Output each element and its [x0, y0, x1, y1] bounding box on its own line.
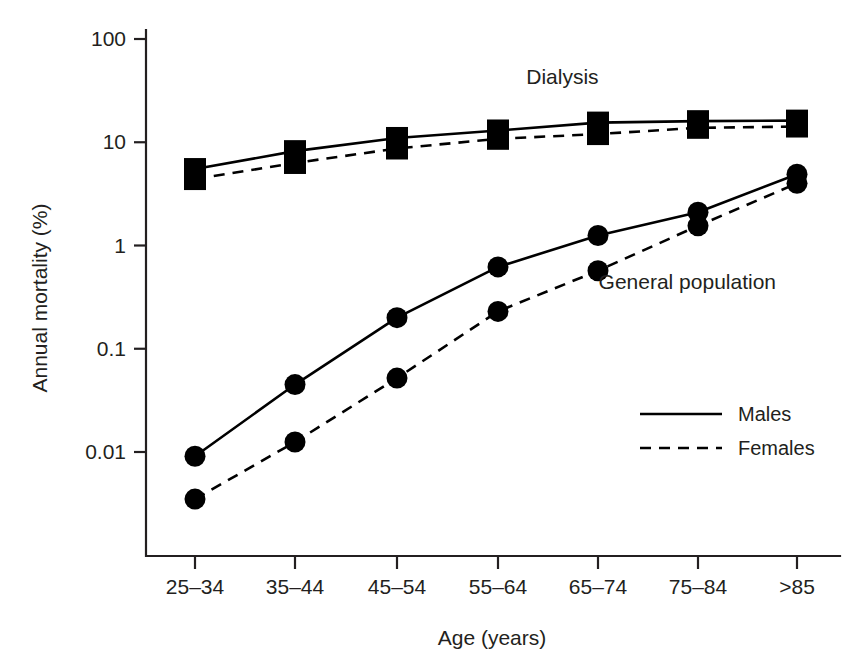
x-tick-label: 55–64: [469, 575, 528, 598]
series-general-population-females: [185, 173, 808, 510]
x-tick-label: 25–34: [166, 575, 225, 598]
y-tick-label: 100: [91, 27, 126, 50]
legend-item-males: Males: [640, 403, 791, 425]
data-point-circle: [787, 173, 808, 194]
annotation-dialysis: Dialysis: [526, 65, 598, 88]
axis-frame: [146, 30, 840, 556]
x-tick: 75–84: [669, 556, 728, 598]
y-tick: 10: [103, 130, 146, 153]
data-point-circle: [185, 446, 206, 467]
data-point-square: [487, 128, 509, 150]
y-tick: 0.01: [85, 440, 146, 463]
data-point-square: [284, 152, 306, 174]
y-tick: 0.1: [97, 337, 146, 360]
x-axis-ticks: 25–3435–4445–5455–6465–7475–84>85: [166, 556, 815, 598]
data-point-square: [386, 137, 408, 159]
chart-figure: 1001010.10.01 25–3435–4445–5455–6465–747…: [0, 0, 850, 662]
y-tick-label: 10: [103, 130, 126, 153]
chart-annotations: DialysisGeneral population: [526, 65, 776, 293]
data-point-circle: [387, 368, 408, 389]
x-tick: >85: [779, 556, 815, 598]
x-tick-label: 35–44: [266, 575, 325, 598]
data-point-circle: [488, 301, 509, 322]
data-point-circle: [285, 374, 306, 395]
legend-label: Females: [738, 437, 815, 459]
y-tick: 100: [91, 27, 146, 50]
y-tick: 1: [114, 234, 146, 257]
x-tick-label: 65–74: [569, 575, 628, 598]
chart-legend: MalesFemales: [640, 403, 815, 459]
x-tick: 45–54: [368, 556, 427, 598]
x-axis-title: Age (years): [438, 626, 547, 649]
legend-label: Males: [738, 403, 791, 425]
annotation-general-population: General population: [599, 270, 776, 293]
x-tick-label: >85: [779, 575, 815, 598]
data-point-circle: [688, 215, 709, 236]
x-tick: 55–64: [469, 556, 528, 598]
x-tick: 65–74: [569, 556, 628, 598]
y-axis-ticks: 1001010.10.01: [85, 27, 146, 463]
data-point-circle: [285, 431, 306, 452]
y-tick-label: 0.1: [97, 337, 126, 360]
y-axis-title: Annual mortality (%): [28, 203, 51, 392]
x-tick: 35–44: [266, 556, 325, 598]
data-point-circle: [588, 225, 609, 246]
mortality-log-chart: 1001010.10.01 25–3435–4445–5455–6465–747…: [0, 0, 850, 662]
data-point-circle: [387, 307, 408, 328]
data-point-circle: [185, 489, 206, 510]
legend-item-females: Females: [640, 437, 815, 459]
data-point-square: [184, 168, 206, 190]
data-point-square: [687, 117, 709, 139]
chart-series: [184, 110, 808, 510]
data-point-circle: [488, 256, 509, 277]
chart-axes: 1001010.10.01 25–3435–4445–5455–6465–747…: [85, 27, 840, 598]
x-tick-label: 45–54: [368, 575, 427, 598]
y-tick-label: 1: [114, 234, 126, 257]
x-tick-label: 75–84: [669, 575, 728, 598]
data-point-square: [587, 123, 609, 145]
x-tick: 25–34: [166, 556, 225, 598]
data-point-square: [786, 116, 808, 138]
y-tick-label: 0.01: [85, 440, 126, 463]
